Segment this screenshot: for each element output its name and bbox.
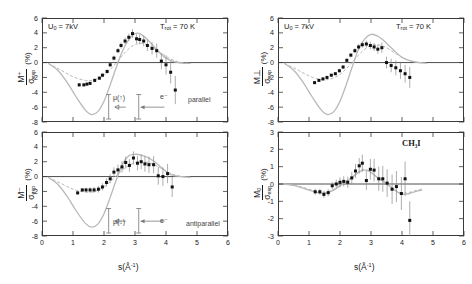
data-point [151,47,154,50]
data-point [116,49,119,52]
data-point [317,79,320,82]
data-point [146,44,149,47]
data-point [127,36,130,39]
data-series-experiment [314,155,412,236]
data-point [169,71,172,74]
data-point [408,76,411,79]
x-tick-label: 6 [457,239,471,246]
dipole-annotation-top-left: μ(↑) [113,94,125,101]
y-tick-label: 2 [22,158,38,165]
data-point [155,49,158,52]
data-point [349,54,352,57]
electron-arrow-head [141,219,145,223]
electron-label: e⁻ [160,93,168,100]
y-tick-label: -1 [258,198,274,205]
x-tick-label: 1 [66,239,80,246]
data-point [321,77,324,80]
data-point [391,188,394,191]
data-point [89,188,92,191]
data-point [171,185,174,188]
electron-annotation-bottom-left: e⁻ [160,217,168,225]
y-tick-label: 0 [22,59,38,66]
data-point [361,43,364,46]
data-point [147,163,150,166]
x-tick-label: 5 [426,239,440,246]
data-point [120,165,123,168]
data-point [369,168,372,171]
data-point [365,179,368,182]
data-point [342,66,345,69]
y-tick-label: 3 [258,129,274,136]
data-point [395,185,398,188]
data-point [112,171,115,174]
data-series-experiment [76,151,174,197]
y-tick-label: 4 [22,29,38,36]
data-point [354,170,357,173]
data-point [160,60,163,63]
x-tick-label: 5 [190,239,204,246]
data-point [394,66,397,69]
data-point [345,59,348,62]
data-point [386,182,389,185]
data-point [325,76,328,79]
data-point [81,188,84,191]
y-tick-label: -4 [22,203,38,210]
y-tick-label: -2 [22,188,38,195]
theory-curve-solid [48,33,191,114]
data-point [404,72,407,75]
molecule-formula: CH₃I [402,138,421,148]
voltage-annotation-top-right: U0 = 7kV [284,22,314,31]
temperature-annotation-top-left: Trot = 70 K [160,22,195,31]
data-point [322,193,325,196]
y-tick-label: 6 [22,129,38,136]
data-point [390,64,393,67]
data-point [358,164,361,167]
y-tick-label: 6 [258,15,274,22]
y-tick-label: -2 [258,215,274,222]
data-point [353,49,356,52]
data-point [318,190,321,193]
data-point [124,40,127,43]
data-point [165,63,168,66]
data-point [101,185,104,188]
electron-arrow-head [141,105,145,109]
data-point [132,157,135,160]
x-tick-label: 3 [128,239,142,246]
data-point [331,184,334,187]
electron-label: e⁻ [160,217,168,224]
data-point [140,160,143,163]
data-point [377,177,380,180]
temperature-value: = 70 K [173,22,195,31]
data-point [109,63,112,66]
data-point [85,83,88,86]
data-point [373,169,376,172]
data-point [334,72,337,75]
data-point [93,188,96,191]
data-point [138,38,141,41]
x-tick-label: 2 [97,239,111,246]
data-point [78,83,81,86]
y-tick-label: -8 [258,119,274,126]
data-point [330,74,333,77]
data-point [128,164,131,167]
y-tick-label: 2 [22,44,38,51]
temperature-subscript: rot [165,25,171,31]
x-tick-label: 4 [395,239,409,246]
temperature-annotation-top-right: Trot = 70 K [396,22,431,31]
data-point [313,81,316,84]
data-point [101,74,104,77]
data-series-experiment [313,41,411,88]
voltage-value: = 7kV [59,22,78,31]
data-point [342,180,345,183]
data-point [143,162,146,165]
data-point [98,77,101,80]
data-point [381,177,384,180]
y-tick-label: -2 [22,74,38,81]
data-point [335,183,338,186]
data-point [373,45,376,48]
data-point [350,176,353,179]
data-point [346,181,349,184]
data-point [116,168,119,171]
y-tick-label: 4 [22,143,38,150]
y-tick-label: 2 [258,146,274,153]
